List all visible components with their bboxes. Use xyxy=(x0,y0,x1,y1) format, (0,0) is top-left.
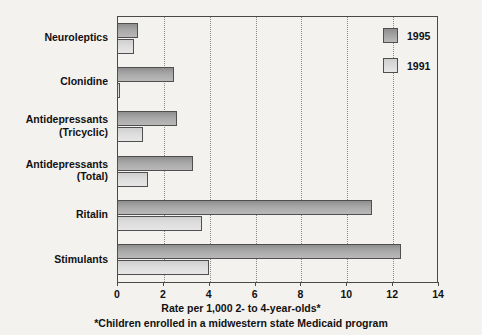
category-label-3: Antidepressants (Total) xyxy=(26,158,108,183)
bar-1991-4 xyxy=(117,216,202,231)
bar-1995-4 xyxy=(117,200,372,215)
x-tick-10 xyxy=(346,282,347,286)
bar-chart: NeurolepticsClonidineAntidepressants (Tr… xyxy=(0,0,482,335)
legend-item-1995: 1995 xyxy=(383,28,430,43)
x-tick-6 xyxy=(255,282,256,286)
x-tick-8 xyxy=(300,282,301,286)
category-label-0: Neuroleptics xyxy=(44,31,108,44)
legend-label-1991: 1991 xyxy=(407,60,430,72)
chart-footnote: *Children enrolled in a midwestern state… xyxy=(0,317,482,329)
x-tick-label-14: 14 xyxy=(423,288,453,300)
legend-swatch-1995 xyxy=(383,28,398,43)
plot-area xyxy=(117,16,438,282)
x-tick-2 xyxy=(163,282,164,286)
bar-1995-2 xyxy=(117,111,177,126)
x-tick-label-0: 0 xyxy=(102,288,132,300)
legend-label-1995: 1995 xyxy=(407,30,430,42)
legend-swatch-1991 xyxy=(383,58,398,73)
gridline-12 xyxy=(393,17,394,282)
gridline-6 xyxy=(256,17,257,282)
bar-1995-0 xyxy=(117,23,138,38)
bar-1991-1 xyxy=(117,83,120,98)
bar-1991-5 xyxy=(117,260,209,275)
x-tick-0 xyxy=(117,282,118,286)
bar-1991-0 xyxy=(117,39,134,54)
x-tick-label-10: 10 xyxy=(331,288,361,300)
x-tick-label-6: 6 xyxy=(240,288,270,300)
x-tick-label-8: 8 xyxy=(285,288,315,300)
bar-1995-1 xyxy=(117,67,174,82)
category-label-4: Ritalin xyxy=(76,208,108,221)
bar-1991-2 xyxy=(117,127,143,142)
x-tick-label-12: 12 xyxy=(377,288,407,300)
bar-1991-3 xyxy=(117,172,148,187)
legend-item-1991: 1991 xyxy=(383,58,430,73)
x-tick-label-2: 2 xyxy=(148,288,178,300)
category-label-1: Clonidine xyxy=(60,75,108,88)
x-tick-4 xyxy=(209,282,210,286)
category-label-5: Stimulants xyxy=(54,253,108,266)
gridline-10 xyxy=(347,17,348,282)
bar-1995-5 xyxy=(117,244,401,259)
category-label-2: Antidepressants (Tricyclic) xyxy=(26,113,108,138)
x-tick-14 xyxy=(438,282,439,286)
gridline-4 xyxy=(210,17,211,282)
x-tick-12 xyxy=(392,282,393,286)
x-axis-line xyxy=(117,282,438,283)
bar-1995-3 xyxy=(117,156,193,171)
x-tick-label-4: 4 xyxy=(194,288,224,300)
gridline-2 xyxy=(164,17,165,282)
x-axis-label: Rate per 1,000 2- to 4-year-olds* xyxy=(0,302,482,314)
gridline-8 xyxy=(301,17,302,282)
